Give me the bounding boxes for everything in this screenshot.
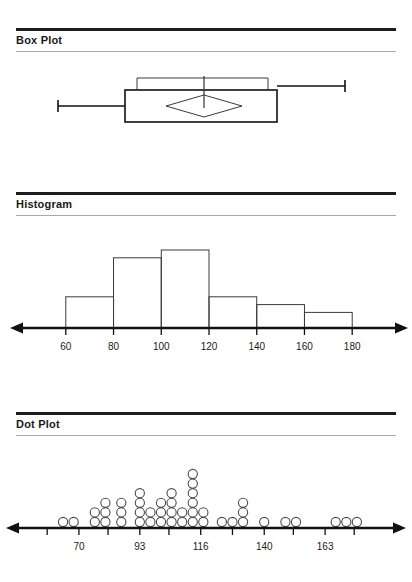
dot-plot-tick-labels: 7093116140163 <box>73 541 334 552</box>
dot-plot-point <box>228 517 237 526</box>
dot-plot-point <box>331 517 340 526</box>
dot-plot-tick-label: 140 <box>256 541 273 552</box>
box-plot-confidence-bracket <box>137 78 268 90</box>
header-rule-bottom <box>16 215 396 216</box>
dot-plot-point <box>342 517 351 526</box>
dot-plot-point <box>156 517 165 526</box>
dot-plot-point <box>217 517 226 526</box>
histogram-axis-arrow-right <box>395 323 408 334</box>
dot-plot-point <box>188 517 197 526</box>
dot-plot-point <box>90 517 99 526</box>
dot-plot-point <box>167 498 176 507</box>
header-rule-top <box>16 28 396 31</box>
histogram-bar <box>304 312 352 328</box>
dot-plot-point <box>260 517 269 526</box>
dot-plot-point <box>167 517 176 526</box>
histogram-tick-label: 120 <box>201 341 218 352</box>
dot-plot-figure: 7093116140163 <box>0 452 412 578</box>
section-title-histogram: Histogram <box>16 198 72 210</box>
dot-plot-tick-label: 70 <box>73 541 85 552</box>
header-rule-top <box>16 192 396 195</box>
box-plot-marks <box>58 76 345 122</box>
histogram-tick-label: 60 <box>60 341 72 352</box>
dot-plot-tick-label: 116 <box>193 541 209 552</box>
section-header-dot-plot: Dot Plot <box>0 412 412 438</box>
dot-plot-point <box>238 517 247 526</box>
histogram-svg: 6080100120140160180 <box>0 230 412 360</box>
histogram-tick-label: 80 <box>108 341 120 352</box>
header-rule-bottom <box>16 435 396 436</box>
dot-plot-point <box>135 517 144 526</box>
section-header-box-plot: Box Plot <box>0 28 412 54</box>
dot-plot-points <box>58 469 361 526</box>
dot-plot-point <box>167 508 176 517</box>
histogram-tick-label: 160 <box>296 341 313 352</box>
dot-plot-point <box>238 508 247 517</box>
dot-plot-point <box>101 498 110 507</box>
histogram-bar <box>66 297 114 328</box>
dot-plot-point <box>146 517 155 526</box>
dot-plot-tick-label: 93 <box>134 541 146 552</box>
dot-plot-point <box>58 517 67 526</box>
histogram-bar <box>209 297 257 328</box>
dot-plot-point <box>291 517 300 526</box>
dot-plot-point <box>90 508 99 517</box>
dot-plot-tick-label: 163 <box>317 541 334 552</box>
statistics-report-page: Box Plot Histogram 6080100120140160180 D… <box>0 0 412 582</box>
dot-plot-point <box>352 517 361 526</box>
histogram-tick-label: 100 <box>153 341 170 352</box>
histogram-axis-arrow-left <box>10 323 23 334</box>
dot-plot-svg: 7093116140163 <box>0 452 412 578</box>
histogram-tick-label: 140 <box>248 341 265 352</box>
dot-plot-point <box>135 489 144 498</box>
histogram-bars <box>66 250 352 328</box>
histogram-tick-labels: 6080100120140160180 <box>60 341 361 352</box>
box-plot-svg <box>0 62 412 142</box>
histogram-bar <box>114 258 162 328</box>
box-plot-figure <box>0 62 412 142</box>
dot-plot-axis-arrow-left <box>6 523 19 534</box>
dot-plot-point <box>101 517 110 526</box>
dot-plot-point <box>135 508 144 517</box>
dot-plot-point <box>156 498 165 507</box>
dot-plot-axis-arrow-right <box>393 523 406 534</box>
dot-plot-point <box>188 469 197 478</box>
dot-plot-point <box>69 517 78 526</box>
header-rule-bottom <box>16 51 396 52</box>
dot-plot-point <box>101 508 110 517</box>
dot-plot-point <box>188 508 197 517</box>
box-plot-iqr-box <box>125 90 277 122</box>
dot-plot-point <box>156 508 165 517</box>
dot-plot-point <box>188 479 197 488</box>
dot-plot-point <box>146 508 155 517</box>
dot-plot-point <box>188 489 197 498</box>
dot-plot-point <box>117 517 126 526</box>
dot-plot-point <box>238 498 247 507</box>
dot-plot-point <box>188 498 197 507</box>
dot-plot-point <box>199 517 208 526</box>
dot-plot-point <box>178 508 187 517</box>
header-rule-top <box>16 412 396 415</box>
histogram-bar <box>161 250 209 328</box>
dot-plot-point <box>178 517 187 526</box>
histogram-figure: 6080100120140160180 <box>0 230 412 360</box>
dot-plot-point <box>135 498 144 507</box>
section-title-box-plot: Box Plot <box>16 34 62 46</box>
dot-plot-point <box>199 508 208 517</box>
dot-plot-point <box>167 489 176 498</box>
section-header-histogram: Histogram <box>0 192 412 218</box>
histogram-bar <box>257 305 305 328</box>
dot-plot-point <box>117 498 126 507</box>
section-title-dot-plot: Dot Plot <box>16 418 60 430</box>
dot-plot-point <box>117 508 126 517</box>
histogram-tick-label: 180 <box>344 341 361 352</box>
dot-plot-point <box>281 517 290 526</box>
